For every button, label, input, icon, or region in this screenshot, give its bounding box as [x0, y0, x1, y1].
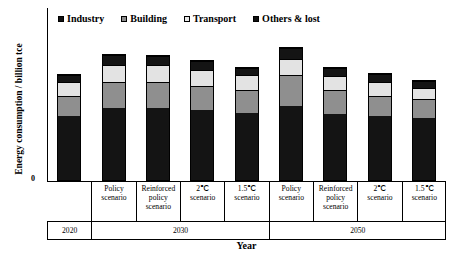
bar-segment-industry [369, 116, 391, 180]
bar-segment-others [191, 61, 213, 69]
scenario-label-3: Reinforcedpolicyscenario [136, 182, 180, 222]
bar-segment-transport [147, 65, 169, 83]
bar-segment-industry [147, 108, 169, 180]
scenario-label-5: 1.5℃scenario [224, 182, 268, 222]
scenario-label-9: 1.5℃scenario [402, 182, 446, 222]
x-axis-scenario-band: PolicyscenarioReinforcedpolicyscenario2℃… [47, 182, 446, 222]
bar-3 [146, 55, 170, 181]
year-label-2030: 2030 [91, 222, 268, 240]
bar-1 [57, 74, 81, 181]
bar-segment-transport [103, 65, 125, 82]
bar-segment-others [369, 74, 391, 82]
bar-segment-transport [324, 76, 346, 91]
bar-segment-building [191, 86, 213, 110]
bar-series-container [47, 8, 446, 181]
bar-segment-building [58, 96, 80, 117]
bar-segment-building [324, 90, 346, 114]
bar-segment-transport [369, 82, 391, 96]
bar-segment-others [147, 56, 169, 65]
bar-segment-industry [58, 116, 80, 180]
bar-segment-industry [324, 114, 346, 180]
bar-segment-industry [191, 110, 213, 180]
chart-figure: Energy consumption / billion tce 0 Indus… [0, 0, 456, 262]
bar-segment-transport [236, 75, 258, 90]
bar-segment-industry [236, 113, 258, 180]
bar-segment-building [147, 82, 169, 108]
bar-segment-transport [280, 59, 302, 75]
bar-segment-building [280, 75, 302, 106]
bar-segment-building [103, 82, 125, 108]
bar-segment-others [324, 68, 346, 76]
bar-segment-building [413, 99, 435, 118]
bar-5 [235, 67, 259, 181]
scenario-label-2: Policyscenario [91, 182, 135, 222]
y-axis-tick-zero: 0 [31, 174, 35, 183]
bar-segment-others [413, 81, 435, 88]
scenario-label-4: 2℃scenario [180, 182, 224, 222]
bar-segment-industry [280, 106, 302, 180]
bar-segment-others [236, 68, 258, 76]
bar-2 [102, 54, 126, 181]
bar-segment-others [103, 55, 125, 65]
bar-7 [323, 67, 347, 181]
scenario-label-8: 2℃scenario [357, 182, 401, 222]
y-axis-title: Energy consumption / billion tce [14, 24, 24, 194]
year-label-2050: 2050 [269, 222, 446, 240]
scenario-label-7: Reinforcedpolicyscenario [313, 182, 357, 222]
year-label-2020: 2020 [47, 222, 91, 240]
bar-segment-industry [413, 118, 435, 180]
bar-6 [279, 47, 303, 181]
bar-segment-others [280, 48, 302, 58]
bar-segment-transport [58, 82, 80, 96]
scenario-label-6: Policyscenario [269, 182, 313, 222]
bar-segment-building [369, 96, 391, 117]
bar-segment-others [58, 75, 80, 82]
scenario-label-1 [47, 182, 91, 222]
x-axis-year-band: 202020302050 [47, 222, 446, 240]
bar-9 [412, 80, 436, 181]
x-axis-title: Year [47, 240, 446, 251]
bar-segment-industry [103, 108, 125, 180]
bar-segment-transport [191, 70, 213, 86]
bar-8 [368, 73, 392, 181]
bar-segment-transport [413, 88, 435, 99]
bar-4 [190, 60, 214, 181]
bar-segment-building [236, 90, 258, 113]
